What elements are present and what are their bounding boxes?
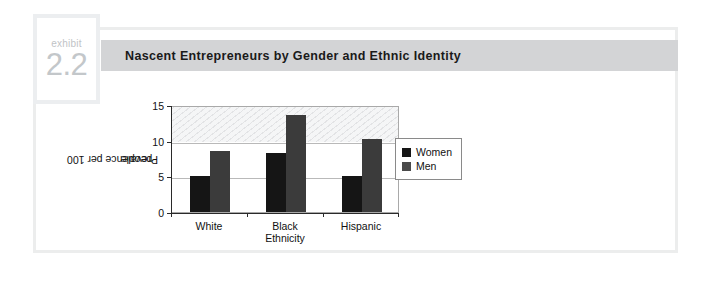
exhibit-title: Nascent Entrepreneurs by Gender and Ethn… bbox=[125, 49, 461, 63]
bar-series-container bbox=[172, 107, 398, 212]
legend-swatch-women-icon bbox=[402, 148, 411, 157]
y-tick-label-10: 10 bbox=[152, 136, 164, 148]
y-tick-label-5: 5 bbox=[158, 171, 164, 183]
x-axis: WhiteBlackHispanic bbox=[171, 213, 399, 214]
x-tick-2 bbox=[323, 213, 324, 217]
chart-legend: WomenMen bbox=[395, 138, 462, 180]
legend-label-men: Men bbox=[416, 160, 436, 172]
x-tick-0 bbox=[171, 213, 172, 217]
plot-area bbox=[171, 106, 399, 213]
bar-chart-figure: Prevalence per 100 people 051015 WhiteBl… bbox=[118, 97, 478, 242]
bar-group-hispanic bbox=[324, 107, 399, 212]
y-axis-title-line2: people bbox=[91, 154, 182, 166]
bar-hispanic-women bbox=[342, 176, 362, 212]
bar-black-men bbox=[286, 115, 306, 212]
legend-label-women: Women bbox=[416, 146, 452, 158]
bar-group-white bbox=[172, 107, 248, 212]
exhibit-title-bar: Nascent Entrepreneurs by Gender and Ethn… bbox=[101, 40, 678, 71]
x-tick-label-black: Black bbox=[272, 220, 298, 232]
bar-hispanic-men bbox=[362, 139, 382, 212]
exhibit-number-badge: exhibit 2.2 bbox=[33, 14, 100, 104]
x-tick-label-white: White bbox=[196, 220, 223, 232]
y-axis-title: Prevalence per 100 people bbox=[112, 106, 138, 213]
bar-white-men bbox=[210, 151, 230, 212]
bar-white-women bbox=[190, 176, 210, 212]
x-tick-1 bbox=[247, 213, 248, 217]
legend-item-women: Women bbox=[402, 146, 452, 158]
y-tick-label-15: 15 bbox=[152, 100, 164, 112]
y-tick-15 bbox=[167, 106, 171, 107]
y-tick-5 bbox=[167, 177, 171, 178]
bar-group-black bbox=[248, 107, 324, 212]
y-tick-label-0: 0 bbox=[158, 207, 164, 219]
x-tick-3 bbox=[398, 213, 399, 217]
x-tick-label-hispanic: Hispanic bbox=[341, 220, 381, 232]
exhibit-number: 2.2 bbox=[46, 49, 88, 81]
bar-black-women bbox=[266, 153, 286, 212]
legend-swatch-men-icon bbox=[402, 162, 411, 171]
x-axis-title: Ethnicity bbox=[171, 232, 399, 244]
y-tick-10 bbox=[167, 142, 171, 143]
legend-item-men: Men bbox=[402, 160, 452, 172]
y-axis: 051015 bbox=[171, 106, 172, 213]
